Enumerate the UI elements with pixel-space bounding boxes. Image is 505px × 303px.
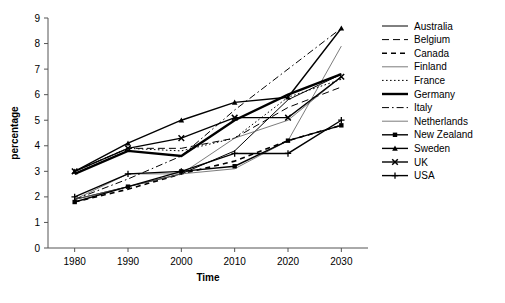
- y-axis-tick-label: 2: [34, 191, 40, 202]
- data-point-marker-square: [393, 133, 397, 137]
- legend-label: Canada: [414, 48, 449, 59]
- data-point-marker-square: [72, 200, 76, 204]
- legend-label: Netherlands: [414, 116, 468, 127]
- series-germany: [75, 74, 342, 174]
- y-axis-tick-label: 5: [34, 115, 40, 126]
- legend-label: Germany: [414, 89, 455, 100]
- data-point-marker-square: [286, 138, 290, 142]
- legend-label: France: [414, 75, 446, 86]
- data-point-marker-plus: [285, 150, 291, 156]
- legend-item-usa[interactable]: [382, 172, 408, 178]
- series-sweden: [72, 25, 344, 173]
- series-line: [75, 28, 342, 171]
- legend-label: Sweden: [414, 143, 450, 154]
- y-axis-tick-label: 4: [34, 140, 40, 151]
- series-line: [75, 120, 342, 197]
- legend-item-new-zealand[interactable]: [382, 133, 408, 137]
- series-line: [75, 46, 342, 199]
- y-axis-tick-label: 7: [34, 64, 40, 75]
- x-axis-tick-label: 2000: [170, 256, 193, 267]
- data-point-marker-square: [339, 123, 343, 127]
- legend-label: Belgium: [414, 34, 450, 45]
- legend-label: UK: [414, 157, 428, 168]
- data-point-marker-triangle: [339, 25, 345, 30]
- legend-label: Australia: [414, 21, 453, 32]
- series-line: [75, 87, 342, 171]
- y-axis-tick-label: 9: [34, 13, 40, 24]
- y-axis-tick-label: 8: [34, 38, 40, 49]
- y-axis-tick-label: 1: [34, 217, 40, 228]
- legend-label: Finland: [414, 61, 447, 72]
- x-axis-tick-label: 2020: [277, 256, 300, 267]
- y-axis-tick-label: 6: [34, 89, 40, 100]
- legend-label: USA: [414, 170, 435, 181]
- line-chart: 0123456789198019902000201020202030Timepe…: [0, 0, 505, 303]
- series-line: [75, 28, 342, 199]
- series-line: [75, 74, 342, 174]
- x-axis-tick-label: 1990: [117, 256, 140, 267]
- data-point-marker-square: [126, 184, 130, 188]
- legend-label: Italy: [414, 102, 432, 113]
- x-axis-tick-label: 1980: [64, 256, 87, 267]
- data-point-marker-plus: [392, 172, 398, 178]
- legend-label: New Zealand: [414, 129, 473, 140]
- x-axis-tick-label: 2030: [330, 256, 353, 267]
- data-point-marker-plus: [231, 150, 237, 156]
- chart-canvas: 0123456789198019902000201020202030Timepe…: [0, 0, 505, 303]
- y-axis-tick-label: 0: [34, 243, 40, 254]
- legend-item-sweden[interactable]: [382, 146, 408, 151]
- x-axis-title: Time: [196, 272, 220, 283]
- series-finland: [75, 46, 342, 199]
- x-axis-tick-label: 2010: [224, 256, 247, 267]
- data-point-marker-plus: [125, 171, 131, 177]
- series-belgium: [75, 87, 342, 171]
- data-point-marker-square: [232, 164, 236, 168]
- legend-item-uk[interactable]: [382, 159, 408, 165]
- data-point-marker-plus: [338, 117, 344, 123]
- y-axis-title: percentage: [9, 106, 20, 160]
- y-axis-tick-label: 3: [34, 166, 40, 177]
- series-italy: [75, 28, 342, 199]
